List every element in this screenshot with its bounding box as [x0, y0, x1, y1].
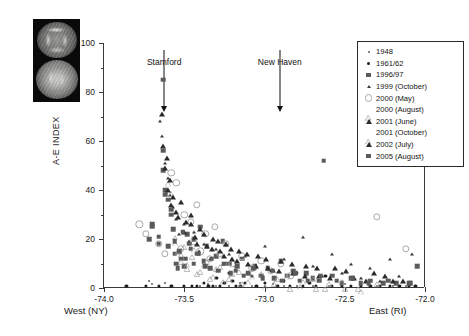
data-point [168, 169, 175, 176]
legend-item-1961-62[interactable]: 1961/62 [361, 58, 459, 70]
data-point [359, 277, 363, 280]
data-point [228, 272, 231, 275]
y-tick [99, 92, 104, 93]
data-point [300, 271, 306, 277]
data-point [163, 188, 168, 193]
legend-item-2001-june[interactable]: 2001 (June) [361, 116, 459, 128]
data-point [280, 278, 285, 283]
legend-item-2005-august[interactable]: 2005 (August) [361, 150, 459, 162]
x-tick-label: -72.0 [415, 294, 434, 304]
data-point [206, 255, 213, 262]
data-point [208, 257, 212, 260]
data-point [234, 264, 238, 267]
data-point [283, 285, 285, 287]
data-point [181, 229, 187, 234]
data-point [172, 239, 177, 244]
data-point [286, 272, 293, 279]
annotation-arrow-head [277, 106, 283, 112]
y-tick-label: 60 [86, 136, 95, 146]
legend-item-2001-october[interactable]: 2001 (October) [361, 127, 459, 139]
x-axis-label-east: East (RI) [369, 305, 406, 316]
data-point [248, 266, 254, 272]
data-point [234, 284, 237, 287]
data-point [313, 278, 319, 284]
data-point [287, 278, 293, 284]
data-point [175, 214, 181, 219]
data-point [158, 120, 162, 123]
y-tick-minor [101, 117, 104, 118]
data-point [310, 276, 315, 281]
data-point [253, 267, 257, 270]
data-point [349, 262, 353, 265]
data-point [228, 271, 233, 276]
data-point [195, 251, 200, 256]
legend-item-1999-october[interactable]: 1999 (October) [361, 81, 459, 93]
specimen-photo-bottom [36, 60, 78, 99]
data-point [223, 241, 229, 246]
data-point [276, 284, 279, 287]
x-tick [345, 287, 346, 292]
data-point [316, 273, 322, 278]
data-point [278, 259, 284, 264]
data-point [162, 165, 168, 170]
data-point [210, 237, 216, 242]
data-point [250, 274, 253, 277]
data-point [246, 271, 251, 276]
data-point [325, 273, 331, 279]
data-point [272, 276, 277, 281]
data-point [197, 261, 203, 267]
inset-specimen-photos [33, 19, 80, 102]
legend-item-2002-july[interactable]: 2002 (July) [361, 139, 459, 151]
data-point [203, 264, 208, 269]
data-point [220, 271, 226, 277]
data-point [259, 273, 264, 278]
data-point [369, 284, 372, 287]
data-point [339, 281, 344, 286]
data-point [213, 258, 219, 264]
data-point [235, 264, 240, 269]
legend-item-1948[interactable]: 1948 [361, 46, 459, 58]
data-point [318, 273, 323, 278]
data-point [317, 278, 322, 283]
data-point [239, 284, 242, 287]
data-point [289, 261, 295, 266]
data-point [181, 211, 188, 218]
x-tick-label: -73.5 [175, 294, 194, 304]
data-point [168, 182, 174, 188]
data-point [216, 269, 221, 274]
annotation-arrow-head [161, 106, 167, 112]
data-point [290, 271, 296, 276]
data-point [330, 273, 335, 278]
legend-item-1996-97[interactable]: 1996/97 [361, 69, 459, 81]
data-point [196, 251, 201, 256]
data-point [407, 284, 410, 287]
legend-marker-icon [361, 62, 376, 65]
data-point [261, 276, 266, 281]
data-point [223, 282, 226, 285]
data-point [189, 246, 195, 252]
y-tick-label: 20 [86, 234, 95, 244]
legend-item-2000-august[interactable]: 2000 (August) [361, 104, 459, 116]
data-point [243, 255, 247, 258]
data-point [187, 242, 192, 247]
data-point [208, 266, 213, 271]
data-point [289, 284, 292, 287]
data-point [211, 223, 218, 230]
data-point [330, 252, 334, 255]
legend-item-2000-may[interactable]: 2000 (May) [361, 92, 459, 104]
data-point [373, 213, 380, 220]
data-point [174, 261, 179, 266]
x-tick-label: -72.5 [335, 294, 354, 304]
data-point [228, 246, 234, 251]
data-point [164, 282, 166, 284]
y-tick-minor [101, 215, 104, 216]
data-point [221, 254, 227, 259]
data-point [255, 254, 261, 259]
data-point [233, 269, 238, 274]
legend-marker-icon [361, 119, 376, 124]
data-point [322, 158, 327, 163]
data-point [405, 285, 407, 287]
data-point [271, 273, 277, 279]
data-point [207, 268, 213, 274]
x-tick [104, 287, 105, 292]
